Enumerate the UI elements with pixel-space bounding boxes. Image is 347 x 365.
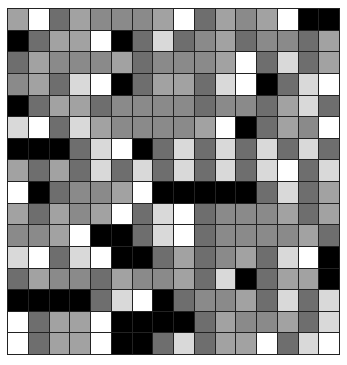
grid-cell[interactable] bbox=[195, 204, 215, 225]
grid-cell[interactable] bbox=[174, 312, 194, 333]
grid-cell[interactable] bbox=[70, 204, 90, 225]
grid-cell[interactable] bbox=[29, 9, 49, 30]
grid-cell[interactable] bbox=[216, 204, 236, 225]
grid-cell[interactable] bbox=[174, 247, 194, 268]
grid-cell[interactable] bbox=[278, 225, 298, 246]
grid-cell[interactable] bbox=[153, 204, 173, 225]
grid-cell[interactable] bbox=[216, 182, 236, 203]
grid-cell[interactable] bbox=[70, 74, 90, 95]
grid-cell[interactable] bbox=[174, 225, 194, 246]
grid-cell[interactable] bbox=[257, 96, 277, 117]
grid-cell[interactable] bbox=[70, 269, 90, 290]
grid-cell[interactable] bbox=[70, 290, 90, 311]
grid-cell[interactable] bbox=[29, 312, 49, 333]
grid-cell[interactable] bbox=[278, 31, 298, 52]
grid-cell[interactable] bbox=[8, 333, 28, 354]
grid-cell[interactable] bbox=[195, 139, 215, 160]
grid-cell[interactable] bbox=[319, 290, 339, 311]
grid-cell[interactable] bbox=[236, 96, 256, 117]
grid-cell[interactable] bbox=[174, 204, 194, 225]
grid-cell[interactable] bbox=[133, 139, 153, 160]
grid-cell[interactable] bbox=[50, 74, 70, 95]
grid-cell[interactable] bbox=[278, 204, 298, 225]
grid-cell[interactable] bbox=[174, 290, 194, 311]
grid-cell[interactable] bbox=[8, 74, 28, 95]
grid-cell[interactable] bbox=[216, 117, 236, 138]
grid-cell[interactable] bbox=[91, 204, 111, 225]
grid-cell[interactable] bbox=[70, 96, 90, 117]
grid-cell[interactable] bbox=[174, 96, 194, 117]
grid-cell[interactable] bbox=[278, 182, 298, 203]
grid-cell[interactable] bbox=[29, 204, 49, 225]
grid-cell[interactable] bbox=[70, 31, 90, 52]
grid-cell[interactable] bbox=[278, 74, 298, 95]
grid-cell[interactable] bbox=[319, 160, 339, 181]
grid-cell[interactable] bbox=[91, 52, 111, 73]
grid-cell[interactable] bbox=[236, 160, 256, 181]
grid-cell[interactable] bbox=[8, 225, 28, 246]
grid-cell[interactable] bbox=[236, 182, 256, 203]
grid-cell[interactable] bbox=[70, 9, 90, 30]
grid-cell[interactable] bbox=[112, 269, 132, 290]
grid-cell[interactable] bbox=[257, 160, 277, 181]
grid-cell[interactable] bbox=[278, 52, 298, 73]
grid-cell[interactable] bbox=[29, 333, 49, 354]
grid-cell[interactable] bbox=[278, 160, 298, 181]
grid-cell[interactable] bbox=[319, 9, 339, 30]
grid-cell[interactable] bbox=[319, 182, 339, 203]
grid-cell[interactable] bbox=[70, 312, 90, 333]
grid-cell[interactable] bbox=[216, 312, 236, 333]
grid-cell[interactable] bbox=[174, 139, 194, 160]
grid-cell[interactable] bbox=[236, 333, 256, 354]
grid-cell[interactable] bbox=[133, 225, 153, 246]
grid-cell[interactable] bbox=[70, 117, 90, 138]
grid-cell[interactable] bbox=[153, 182, 173, 203]
grid-cell[interactable] bbox=[216, 139, 236, 160]
grid-cell[interactable] bbox=[91, 117, 111, 138]
grid-cell[interactable] bbox=[174, 182, 194, 203]
grid-cell[interactable] bbox=[91, 160, 111, 181]
grid-cell[interactable] bbox=[50, 160, 70, 181]
grid-cell[interactable] bbox=[8, 204, 28, 225]
grid-cell[interactable] bbox=[195, 74, 215, 95]
grid-cell[interactable] bbox=[236, 52, 256, 73]
grid-cell[interactable] bbox=[70, 139, 90, 160]
grid-cell[interactable] bbox=[319, 225, 339, 246]
grid-cell[interactable] bbox=[153, 52, 173, 73]
grid-cell[interactable] bbox=[133, 52, 153, 73]
grid-cell[interactable] bbox=[153, 247, 173, 268]
grid-cell[interactable] bbox=[8, 269, 28, 290]
grid-cell[interactable] bbox=[153, 96, 173, 117]
grid-cell[interactable] bbox=[153, 74, 173, 95]
grid-cell[interactable] bbox=[8, 182, 28, 203]
grid-cell[interactable] bbox=[29, 182, 49, 203]
grid-cell[interactable] bbox=[257, 225, 277, 246]
grid-cell[interactable] bbox=[278, 269, 298, 290]
grid-cell[interactable] bbox=[319, 204, 339, 225]
grid-cell[interactable] bbox=[133, 74, 153, 95]
grid-cell[interactable] bbox=[153, 9, 173, 30]
grid-cell[interactable] bbox=[174, 9, 194, 30]
grid-cell[interactable] bbox=[299, 117, 319, 138]
grid-cell[interactable] bbox=[133, 204, 153, 225]
grid-cell[interactable] bbox=[236, 204, 256, 225]
grid-cell[interactable] bbox=[257, 9, 277, 30]
grid-cell[interactable] bbox=[299, 333, 319, 354]
grid-cell[interactable] bbox=[174, 52, 194, 73]
grid-cell[interactable] bbox=[299, 31, 319, 52]
grid-cell[interactable] bbox=[236, 117, 256, 138]
grid-cell[interactable] bbox=[153, 139, 173, 160]
grid-cell[interactable] bbox=[8, 117, 28, 138]
grid-cell[interactable] bbox=[299, 9, 319, 30]
grid-cell[interactable] bbox=[112, 312, 132, 333]
grid-cell[interactable] bbox=[91, 182, 111, 203]
grid-cell[interactable] bbox=[112, 182, 132, 203]
grid-cell[interactable] bbox=[8, 52, 28, 73]
grid-cell[interactable] bbox=[299, 74, 319, 95]
grid-cell[interactable] bbox=[236, 225, 256, 246]
grid-cell[interactable] bbox=[195, 31, 215, 52]
grid-cell[interactable] bbox=[50, 182, 70, 203]
grid-cell[interactable] bbox=[50, 204, 70, 225]
grid-cell[interactable] bbox=[195, 225, 215, 246]
grid-cell[interactable] bbox=[91, 74, 111, 95]
